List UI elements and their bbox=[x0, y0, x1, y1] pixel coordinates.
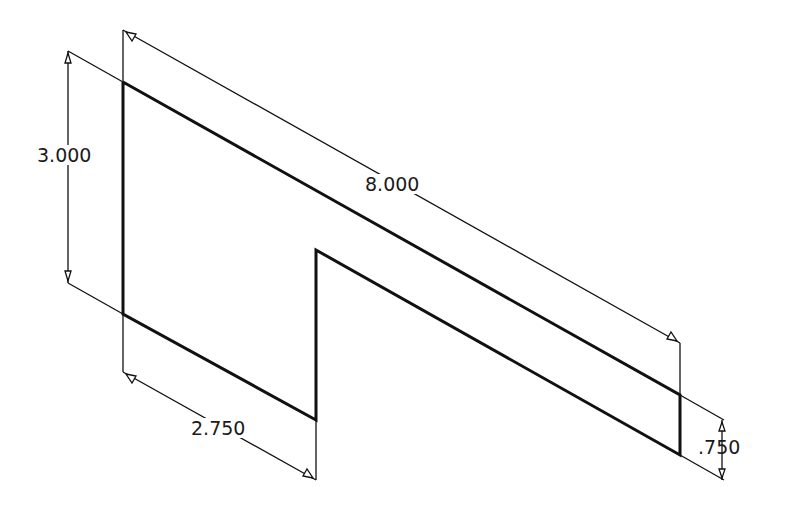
dimension-label-notch-width: 2.750 bbox=[190, 418, 246, 438]
dimension-label-thickness: .750 bbox=[697, 437, 741, 457]
part-profile bbox=[123, 82, 680, 455]
dimension-label-length: 8.000 bbox=[364, 174, 420, 194]
drawing-canvas: 3.000 8.000 2.750 .750 bbox=[0, 0, 785, 508]
dimension-length bbox=[123, 30, 680, 395]
dimension-label-height: 3.000 bbox=[36, 145, 92, 165]
dimension-notch-width bbox=[123, 314, 316, 480]
dimension-height bbox=[65, 51, 123, 314]
sketch-svg bbox=[0, 0, 785, 508]
